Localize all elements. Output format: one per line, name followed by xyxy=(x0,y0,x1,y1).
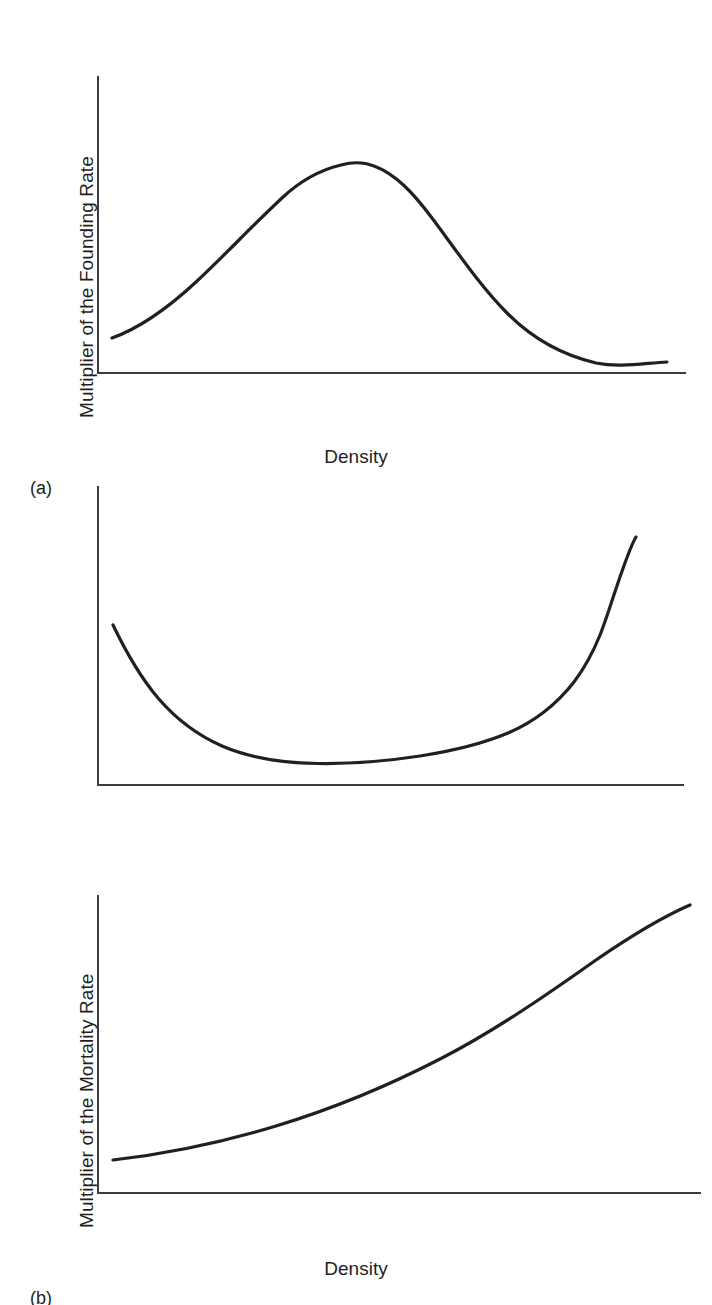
chart-panel-c: Multiplier of the Mortality Rate Density… xyxy=(0,860,712,1260)
chart-b-plot xyxy=(0,460,712,860)
chart-b-curve xyxy=(113,537,636,764)
chart-a-plot xyxy=(0,60,712,460)
chart-c-plot xyxy=(0,860,712,1260)
chart-panel-b: Multiplier of the Mortality Rate Density… xyxy=(0,460,712,860)
chart-panel-a: Multiplier of the Founding Rate Density … xyxy=(0,60,712,460)
chart-a-y-axis-label: Multiplier of the Founding Rate xyxy=(76,156,98,418)
chart-c-curve xyxy=(113,905,690,1160)
chart-b-caption: (b) xyxy=(30,1288,52,1305)
chart-b-x-axis-label: Density xyxy=(0,1258,712,1280)
figure-page: Multiplier of the Founding Rate Density … xyxy=(0,0,712,1305)
chart-a-curve xyxy=(112,163,667,365)
